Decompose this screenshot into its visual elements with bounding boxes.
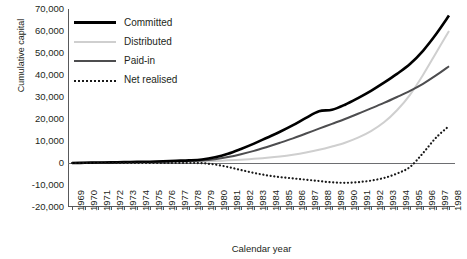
legend-label: Distributed bbox=[124, 34, 172, 50]
y-tick-label: 50,000 bbox=[2, 48, 64, 58]
y-tick-label: 40,000 bbox=[2, 70, 64, 80]
x-tick-mark bbox=[267, 207, 268, 210]
legend-item-paidin[interactable]: Paid-in bbox=[74, 53, 224, 69]
x-tick-mark bbox=[332, 207, 333, 210]
x-tick-mark bbox=[202, 207, 203, 210]
y-tick-label: 60,000 bbox=[2, 26, 64, 36]
y-tick-label: -10,000 bbox=[2, 180, 64, 190]
x-tick-mark bbox=[436, 207, 437, 210]
y-axis-tick-labels: 70,00060,00050,00040,00030,00020,00010,0… bbox=[0, 0, 64, 259]
legend-swatch-netrealised-icon bbox=[74, 80, 116, 82]
y-tick-label: 70,000 bbox=[2, 4, 64, 14]
x-tick-mark bbox=[98, 207, 99, 210]
x-tick-mark bbox=[345, 207, 346, 210]
y-tick-label: 10,000 bbox=[2, 136, 64, 146]
x-tick-mark bbox=[371, 207, 372, 210]
legend-swatch-paidin-icon bbox=[74, 60, 116, 62]
y-tick-label: 30,000 bbox=[2, 92, 64, 102]
legend-swatch-distributed-icon bbox=[74, 41, 116, 43]
x-tick-mark bbox=[410, 207, 411, 210]
legend-label: Net realised bbox=[124, 72, 177, 88]
legend-swatch-committed-icon bbox=[74, 21, 116, 24]
x-tick-mark bbox=[124, 207, 125, 210]
legend-label: Paid-in bbox=[124, 53, 155, 69]
x-tick-mark bbox=[176, 207, 177, 210]
x-tick-label: 1998 bbox=[453, 190, 463, 211]
x-tick-mark bbox=[280, 207, 281, 210]
x-tick-mark bbox=[72, 207, 73, 210]
x-tick-mark bbox=[189, 207, 190, 210]
x-tick-mark bbox=[293, 207, 294, 210]
x-axis-title: Calendar year bbox=[68, 243, 455, 254]
x-tick-mark bbox=[254, 207, 255, 210]
x-tick-mark bbox=[423, 207, 424, 210]
x-tick-mark bbox=[319, 207, 320, 210]
chart-legend: CommittedDistributedPaid-inNet realised bbox=[74, 15, 224, 91]
x-tick-mark bbox=[358, 207, 359, 210]
legend-item-distributed[interactable]: Distributed bbox=[74, 34, 224, 50]
x-tick-mark bbox=[215, 207, 216, 210]
x-tick-mark bbox=[397, 207, 398, 210]
x-tick-mark bbox=[306, 207, 307, 210]
x-tick-mark bbox=[111, 207, 112, 210]
x-tick-mark bbox=[137, 207, 138, 210]
x-tick-mark bbox=[163, 207, 164, 210]
series-line-net-realised bbox=[72, 126, 449, 183]
legend-label: Committed bbox=[124, 15, 172, 31]
x-tick-mark bbox=[150, 207, 151, 210]
x-tick-mark bbox=[228, 207, 229, 210]
y-tick-label: 20,000 bbox=[2, 114, 64, 124]
y-tick-label: 0 bbox=[2, 158, 64, 168]
y-tick-label: -20,000 bbox=[2, 202, 64, 212]
x-tick-mark bbox=[449, 207, 450, 210]
legend-item-committed[interactable]: Committed bbox=[74, 15, 224, 31]
x-tick-mark bbox=[241, 207, 242, 210]
x-tick-mark bbox=[384, 207, 385, 210]
x-tick-mark bbox=[85, 207, 86, 210]
cumulative-capital-chart: Cumulative capital 70,00060,00050,00040,… bbox=[0, 0, 467, 259]
legend-item-netrealised[interactable]: Net realised bbox=[74, 72, 224, 88]
